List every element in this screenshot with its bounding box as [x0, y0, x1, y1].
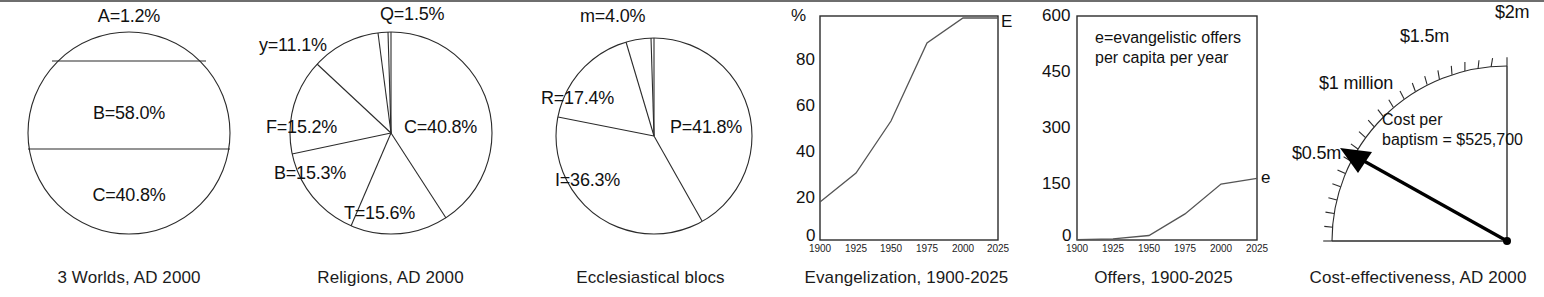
series-marker-e: E [1001, 12, 1012, 32]
series-line-e [1077, 178, 1257, 239]
panel-caption-offers: Offers, 1900-2025 [1035, 268, 1292, 288]
gauge-needle [1355, 156, 1507, 241]
series-line-e [820, 18, 998, 202]
panel-cost-effectiveness: $0.5m $1 million $1.5m $2m Cost per bapt… [1292, 0, 1544, 297]
plot-frame [820, 16, 998, 240]
x-tick-2025: 2025 [987, 243, 1009, 254]
panel-caption-three-worlds: 3 Worlds, AD 2000 [0, 268, 258, 288]
x-tick-2025: 2025 [1246, 243, 1268, 254]
religions-pie [258, 16, 523, 266]
slice-label-c: C=40.8% [92, 185, 165, 206]
dial-label-one-million: $1 million [1319, 73, 1393, 94]
gauge-annotation: Cost per baptism = $525,700 [1382, 110, 1523, 149]
x-tick-1975: 1975 [916, 243, 938, 254]
panel-caption-religions: Religions, AD 2000 [258, 268, 523, 288]
slice-label-f: F=15.2% [266, 117, 337, 138]
panel-religions: Q=1.5% y=11.1% F=15.2% B=15.3% T=15.6% C… [258, 0, 523, 297]
gauge-pivot [1503, 237, 1511, 245]
slice-label-c: C=40.8% [404, 117, 477, 138]
three-worlds-diagram [0, 16, 258, 266]
gauge-annotation-line2: baptism = $525,700 [1382, 131, 1523, 148]
panel-caption-cost-effectiveness: Cost-effectiveness, AD 2000 [1292, 268, 1544, 288]
x-tick-1925: 1925 [1102, 243, 1124, 254]
panel-offers: 600 450 300 150 0 e=evangelistic offers … [1035, 0, 1292, 297]
slice-label-r: R=17.4% [541, 88, 614, 109]
panel-three-worlds: A=1.2% B=58.0% C=40.8% 3 Worlds, AD 2000 [0, 0, 258, 297]
x-tick-1950: 1950 [1138, 243, 1160, 254]
x-tick-1900: 1900 [1066, 243, 1088, 254]
evangelization-plot [778, 0, 1035, 250]
panel-ecclesiastical-blocs: m=4.0% R=17.4% I=36.3% P=41.8% Ecclesias… [523, 0, 778, 297]
dial-label-half-million: $0.5m [1292, 143, 1341, 164]
gauge-annotation-line1: Cost per [1382, 111, 1442, 128]
slice-label-p: P=41.8% [670, 117, 742, 138]
slice-label-t: T=15.6% [344, 203, 415, 224]
panel-caption-ecclesiastical-blocs: Ecclesiastical blocs [523, 268, 778, 288]
offers-annotation-line1: e=evangelistic offers [1095, 29, 1241, 46]
figure-strip: A=1.2% B=58.0% C=40.8% 3 Worlds, AD 2000… [0, 0, 1544, 297]
gauge-needle-arrowhead [1340, 148, 1372, 173]
x-tick-1900: 1900 [809, 243, 831, 254]
pie-ray-i-r [558, 117, 654, 136]
pie-ray-r-m [626, 42, 654, 136]
slice-label-b: B=58.0% [93, 103, 165, 124]
ecclesiastical-pie [523, 16, 778, 266]
series-marker-e: e [1261, 168, 1270, 188]
slice-label-i: I=36.3% [555, 170, 620, 191]
x-tick-1950: 1950 [880, 243, 902, 254]
offers-annotation: e=evangelistic offers per capita per yea… [1095, 28, 1241, 67]
panel-evangelization: % 80 60 40 20 0 E 1900 1925 1950 1975 20… [778, 0, 1035, 297]
x-tick-1925: 1925 [845, 243, 867, 254]
panel-caption-evangelization: Evangelization, 1900-2025 [778, 268, 1035, 288]
x-tick-2000: 2000 [1210, 243, 1232, 254]
x-tick-1975: 1975 [1174, 243, 1196, 254]
slice-label-b: B=15.3% [274, 163, 346, 184]
dial-label-one-point-five-million: $1.5m [1400, 26, 1449, 47]
dial-label-two-million: $2m [1495, 2, 1529, 23]
pie-ray-p-i [654, 136, 702, 221]
offers-annotation-line2: per capita per year [1095, 49, 1228, 66]
x-tick-2000: 2000 [952, 243, 974, 254]
